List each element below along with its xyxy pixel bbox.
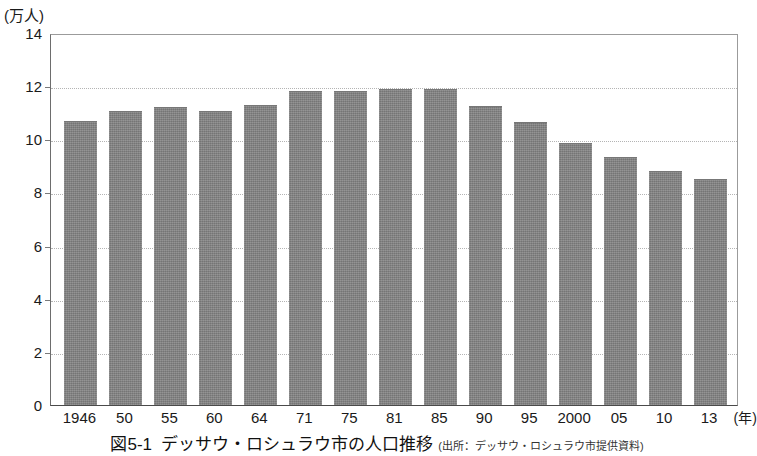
caption-title: デッサウ・ロシュラウ市の人口推移 [161,435,433,454]
y-axis-unit-label: (万人) [4,4,44,25]
bar [514,122,547,405]
bar [604,157,637,405]
y-tick-mark [45,193,50,194]
y-tick-label: 2 [2,345,42,360]
y-tick-label: 6 [2,239,42,254]
bar [469,106,502,405]
y-tick-label: 12 [2,79,42,94]
figure-caption: 図5-1 デッサウ・ロシュラウ市の人口推移 (出所：デッサウ・ロシュラウ市提供資… [0,434,754,456]
bar [559,143,592,405]
bar [154,107,187,405]
y-tick-mark [45,247,50,248]
bar [379,89,412,405]
bar [289,91,322,405]
y-tick-mark [45,353,50,354]
y-tick-label: 4 [2,292,42,307]
bar [244,105,277,405]
caption-source: (出所：デッサウ・ロシュラウ市提供資料) [438,440,643,452]
bar [199,111,232,405]
bar [64,121,97,405]
y-tick-label: 0 [2,398,42,413]
y-tick-mark [45,140,50,141]
y-tick-label: 10 [2,132,42,147]
bar [424,89,457,405]
x-tick-label: 13 [679,410,739,426]
bar [334,91,367,405]
y-tick-mark [45,300,50,301]
y-tick-label: 14 [2,26,42,41]
caption-number: 図5-1 [110,435,152,454]
bar [694,179,727,405]
bars-group [51,35,737,405]
plot-area [50,34,738,406]
y-tick-mark [45,87,50,88]
bar [109,111,142,405]
y-tick-label: 8 [2,185,42,200]
bar [649,171,682,405]
